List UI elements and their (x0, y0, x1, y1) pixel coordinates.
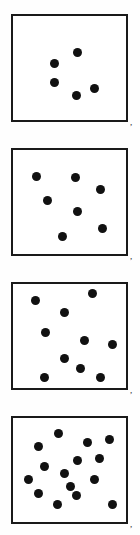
dot (80, 336, 89, 345)
dot (31, 296, 40, 305)
dot (58, 232, 67, 241)
dot-panel-4 (11, 416, 128, 524)
dot (90, 84, 99, 93)
dot (76, 364, 85, 373)
dot (54, 429, 63, 438)
dot (60, 469, 69, 478)
panel-separator-comma: , (130, 118, 132, 127)
panel-separator-comma: , (130, 386, 132, 395)
dot (34, 442, 43, 451)
dot (50, 78, 59, 87)
dot (72, 91, 81, 100)
dot-density-figure: Dot density stimulus panels ,,,, (0, 0, 140, 535)
figure-title: Dot density stimulus panels (0, 21, 1, 22)
dot-panel-2 (11, 148, 128, 256)
dot (95, 454, 104, 463)
dot (73, 48, 82, 57)
dot (40, 373, 49, 382)
dot (90, 475, 99, 484)
dot (88, 289, 97, 298)
dot (60, 308, 69, 317)
dot (71, 173, 80, 182)
panel-separator-comma: , (130, 520, 132, 529)
dot (43, 196, 52, 205)
dot (40, 462, 49, 471)
dot (73, 456, 82, 465)
dot (105, 435, 114, 444)
dot (41, 328, 50, 337)
dot-panel-1 (11, 14, 128, 122)
dot (96, 185, 105, 194)
dot-panel-3 (11, 282, 128, 390)
panel-separator-comma: , (130, 252, 132, 261)
dot (32, 172, 41, 181)
dot (108, 500, 117, 509)
dot (73, 207, 82, 216)
dot (108, 340, 117, 349)
dot (98, 224, 107, 233)
dot (66, 482, 75, 491)
dot (96, 373, 105, 382)
dot (72, 491, 81, 500)
dot (50, 59, 59, 68)
dot (83, 438, 92, 447)
dot (24, 475, 33, 484)
dot (34, 489, 43, 498)
dot (60, 354, 69, 363)
dot (53, 500, 62, 509)
